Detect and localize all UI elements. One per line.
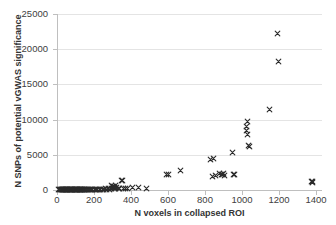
y-tick-mark bbox=[53, 120, 57, 121]
x-tick-label: 400 bbox=[111, 194, 151, 205]
y-axis-title: N SNPs of potential vGWAS significance bbox=[13, 11, 23, 191]
y-tick-label: 5000 bbox=[0, 150, 48, 160]
gridline-y bbox=[57, 155, 322, 156]
chart-figure: 0500010000150002000025000 02004006008001… bbox=[0, 0, 336, 225]
y-tick-mark bbox=[53, 49, 57, 50]
x-tick-label: 200 bbox=[74, 194, 114, 205]
x-axis-title: N voxels in collapsed ROI bbox=[57, 208, 322, 218]
y-tick-mark bbox=[53, 155, 57, 156]
x-tick-label: 0 bbox=[37, 194, 77, 205]
gridline-y bbox=[57, 49, 322, 50]
y-tick-mark bbox=[53, 84, 57, 85]
x-tick-label: 1000 bbox=[222, 194, 262, 205]
x-tick-label: 1200 bbox=[259, 194, 299, 205]
y-tick-label: 10000 bbox=[0, 115, 48, 125]
x-axis-line bbox=[57, 190, 322, 191]
y-tick-label: 25000 bbox=[0, 9, 48, 19]
x-tick-label: 800 bbox=[185, 194, 225, 205]
y-axis-line bbox=[57, 14, 58, 191]
gridline-y bbox=[57, 120, 322, 121]
y-tick-mark bbox=[53, 14, 57, 15]
x-tick-label: 600 bbox=[148, 194, 188, 205]
gridline-y bbox=[57, 14, 322, 15]
x-tick-label: 1400 bbox=[296, 194, 336, 205]
y-tick-label: 20000 bbox=[0, 44, 48, 54]
plot-area bbox=[57, 14, 322, 190]
gridline-y bbox=[57, 84, 322, 85]
y-tick-label: 15000 bbox=[0, 79, 48, 89]
